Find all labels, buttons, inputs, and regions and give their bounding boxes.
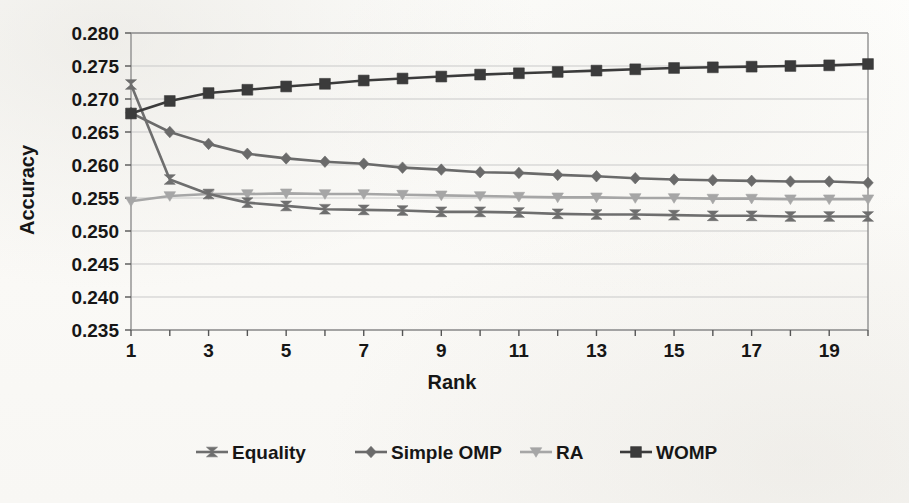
series-marker bbox=[397, 73, 408, 84]
chart-legend: EqualitySimple OMPRAWOMP bbox=[196, 442, 718, 463]
series-marker bbox=[475, 167, 486, 179]
series-marker bbox=[320, 78, 331, 89]
y-tick-label: 0.245 bbox=[71, 254, 119, 275]
x-axis-tick-labels: 135791113151719 bbox=[126, 340, 840, 361]
x-tick-label: 9 bbox=[436, 340, 447, 361]
series-marker bbox=[164, 175, 175, 185]
y-tick-label: 0.275 bbox=[71, 56, 119, 77]
series-line bbox=[131, 113, 868, 183]
series-marker bbox=[203, 88, 214, 99]
legend-item-womp[interactable]: WOMP bbox=[620, 442, 718, 463]
series-marker bbox=[397, 162, 408, 174]
series-line bbox=[131, 64, 868, 114]
series-marker bbox=[203, 138, 214, 150]
legend-swatch-marker bbox=[631, 447, 642, 458]
y-tick-label: 0.235 bbox=[71, 320, 119, 341]
series-marker bbox=[708, 174, 719, 186]
series-marker bbox=[591, 170, 602, 182]
series-marker bbox=[669, 63, 680, 74]
series-marker bbox=[863, 177, 874, 189]
series-marker bbox=[746, 175, 757, 187]
x-tick-label: 13 bbox=[586, 340, 607, 361]
series-marker bbox=[513, 68, 524, 79]
x-tick-label: 3 bbox=[203, 340, 214, 361]
series-marker bbox=[320, 156, 331, 168]
series-marker bbox=[126, 108, 137, 119]
series-marker bbox=[785, 61, 796, 72]
series-marker bbox=[281, 153, 292, 165]
series-marker bbox=[746, 61, 757, 72]
series-marker bbox=[591, 65, 602, 76]
y-tick-label: 0.240 bbox=[71, 287, 119, 308]
series-marker bbox=[514, 167, 525, 179]
series-marker bbox=[863, 59, 874, 70]
accuracy-vs-rank-line-chart: 0.2350.2400.2450.2500.2550.2600.2650.270… bbox=[0, 0, 909, 503]
series-marker bbox=[125, 80, 136, 90]
data-series-layer bbox=[125, 59, 874, 222]
series-marker bbox=[242, 148, 253, 160]
series-marker bbox=[785, 176, 796, 188]
series-marker bbox=[824, 60, 835, 71]
series-marker bbox=[164, 126, 175, 138]
legend-swatch-marker bbox=[366, 446, 377, 458]
y-tick-label: 0.265 bbox=[71, 122, 119, 143]
x-tick-label: 7 bbox=[358, 340, 369, 361]
y-tick-label: 0.250 bbox=[71, 221, 119, 242]
series-marker bbox=[436, 71, 447, 82]
series-marker bbox=[358, 75, 369, 86]
series-marker bbox=[242, 84, 253, 95]
x-tick-label: 5 bbox=[281, 340, 292, 361]
legend-item-simple-omp[interactable]: Simple OMP bbox=[355, 442, 502, 463]
legend-label: RA bbox=[556, 442, 584, 463]
x-tick-label: 19 bbox=[819, 340, 840, 361]
series-simple-omp bbox=[126, 107, 874, 188]
y-tick-label: 0.270 bbox=[71, 89, 119, 110]
series-marker bbox=[436, 164, 447, 176]
y-axis-title: Accuracy bbox=[16, 144, 38, 235]
y-tick-label: 0.280 bbox=[71, 23, 119, 44]
series-marker bbox=[630, 64, 641, 75]
y-axis-tick-labels: 0.2350.2400.2450.2500.2550.2600.2650.270… bbox=[71, 23, 119, 341]
x-tick-label: 15 bbox=[663, 340, 685, 361]
series-marker bbox=[552, 67, 563, 78]
series-marker bbox=[824, 176, 835, 188]
series-marker bbox=[164, 96, 175, 107]
series-womp bbox=[126, 59, 874, 119]
x-tick-label: 1 bbox=[126, 340, 137, 361]
series-marker bbox=[552, 169, 563, 181]
series-marker bbox=[475, 69, 486, 80]
x-tick-label: 11 bbox=[509, 340, 530, 361]
series-marker bbox=[707, 62, 718, 73]
legend-item-ra[interactable]: RA bbox=[520, 442, 584, 463]
series-marker bbox=[358, 158, 369, 170]
series-marker bbox=[630, 172, 641, 184]
series-marker bbox=[669, 174, 680, 186]
legend-label: Simple OMP bbox=[391, 442, 502, 463]
x-axis-ticks bbox=[131, 330, 868, 336]
x-axis-title: Rank bbox=[428, 371, 478, 393]
x-tick-label: 17 bbox=[741, 340, 762, 361]
y-tick-label: 0.260 bbox=[71, 155, 119, 176]
legend-label: WOMP bbox=[656, 442, 718, 463]
legend-item-equality[interactable]: Equality bbox=[196, 442, 306, 463]
y-axis-ticks bbox=[125, 33, 131, 330]
series-marker bbox=[281, 81, 292, 92]
y-tick-label: 0.255 bbox=[71, 188, 119, 209]
legend-label: Equality bbox=[232, 442, 306, 463]
